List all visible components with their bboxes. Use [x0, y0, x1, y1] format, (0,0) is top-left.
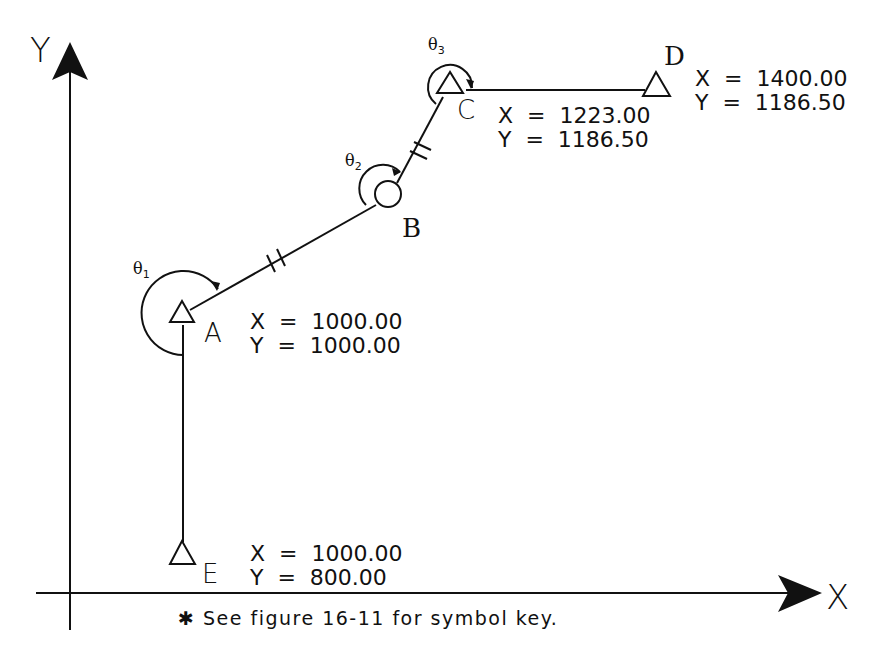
angle-label: θ3 — [428, 35, 445, 57]
angle-arrow-icon — [211, 281, 220, 291]
point-A: A X = 1000.00 Y = 1000.00 — [170, 301, 402, 358]
traverse-diagram: Y X A X = 1000.00 Y = 1000.00 θ1 — [0, 0, 882, 654]
point-B: B — [375, 181, 421, 243]
triangle-station-icon — [170, 541, 195, 564]
point-label: E — [202, 559, 218, 589]
point-label: A — [204, 318, 222, 348]
point-x-coordinate: X = 1223.00 — [498, 103, 650, 128]
point-D: D X = 1400.00 Y = 1186.50 — [643, 41, 847, 115]
point-label: D — [664, 41, 685, 71]
angle-label: θ2 — [345, 151, 362, 173]
point-label: B — [402, 213, 421, 243]
point-y-coordinate: Y = 800.00 — [249, 565, 387, 590]
triangle-station-icon — [170, 301, 194, 322]
triangle-station-icon — [643, 72, 670, 96]
y-axis-label: Y — [30, 30, 51, 70]
point-y-coordinate: Y = 1186.50 — [694, 90, 846, 115]
line-A-B — [190, 205, 376, 310]
x-axis-label: X — [826, 577, 849, 617]
circle-station-icon — [375, 181, 401, 207]
point-y-coordinate: Y = 1186.50 — [497, 127, 649, 152]
point-x-coordinate: X = 1400.00 — [695, 66, 847, 91]
angle-label: θ1 — [133, 259, 150, 281]
point-E: E X = 1000.00 Y = 800.00 — [170, 541, 402, 590]
line-B-C — [397, 97, 443, 183]
footnote: ✱ See figure 16-11 for symbol key. — [178, 607, 558, 629]
point-y-coordinate: Y = 1000.00 — [249, 333, 401, 358]
point-x-coordinate: X = 1000.00 — [250, 309, 402, 334]
y-axis: Y — [30, 30, 88, 630]
point-x-coordinate: X = 1000.00 — [250, 541, 402, 566]
point-label: C — [457, 95, 475, 125]
triangle-station-icon — [437, 72, 463, 93]
